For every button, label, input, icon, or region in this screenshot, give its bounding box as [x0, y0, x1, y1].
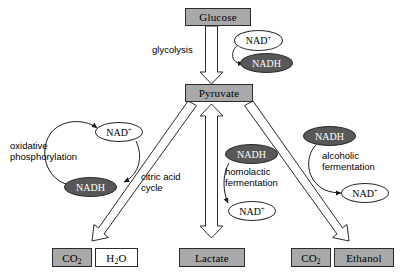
metabolite-h2o: H2O — [95, 248, 138, 267]
metabolite-co2-left: CO2 — [52, 248, 92, 267]
cofactor-nadh-glycolysis: NADH — [240, 53, 293, 73]
cofactor-nad-alcoholic-label: NAD+ — [352, 188, 378, 199]
glycolysis-block-arrow — [200, 26, 223, 84]
metabolite-pyruvate-label: Pyruvate — [199, 87, 240, 99]
metabolite-co2-right-label: CO2 — [301, 252, 321, 264]
pathway-label-homolactic-fermentation: homolactic fermentation — [225, 166, 278, 188]
cofactor-nad-oxphos: NAD+ — [95, 122, 143, 142]
cofactor-nad-glycolysis-label: NAD+ — [246, 35, 272, 46]
metabolite-ethanol-label: Ethanol — [346, 252, 382, 264]
cofactor-nad-homolactic: NAD+ — [228, 201, 276, 221]
pathway-label-citric-acid-cycle: citric acid cycle — [141, 171, 181, 193]
pathway-label-oxidative-phosphorylation: oxidative phosphorylation — [10, 140, 77, 162]
metabolite-glucose: Glucose — [185, 8, 251, 26]
cofactor-nadh-alcoholic: NADH — [303, 126, 356, 146]
pathway-label-glycolysis: glycolysis — [152, 44, 193, 55]
metabolite-lactate-label: Lactate — [195, 252, 229, 264]
metabolite-ethanol: Ethanol — [334, 248, 394, 267]
cofactor-nad-glycolysis: NAD+ — [234, 30, 283, 51]
metabolite-lactate: Lactate — [179, 248, 245, 267]
cofactor-nadh-homolactic-label: NADH — [237, 149, 266, 160]
metabolite-pyruvate: Pyruvate — [185, 84, 253, 102]
homolactic-double-arrow — [200, 104, 223, 238]
cofactor-nad-homolactic-label: NAD+ — [239, 206, 265, 217]
metabolite-co2-right: CO2 — [291, 248, 331, 267]
metabolite-glucose-label: Glucose — [199, 11, 236, 23]
cofactor-nadh-glycolysis-label: NADH — [252, 58, 281, 69]
cofactor-nad-alcoholic: NAD+ — [341, 183, 389, 203]
pathway-label-alcoholic-fermentation: alcoholic fermentation — [322, 150, 375, 172]
cofactor-nadh-homolactic: NADH — [225, 144, 278, 164]
cofactor-nadh-alcoholic-label: NADH — [315, 131, 344, 142]
metabolite-h2o-label: H2O — [106, 252, 126, 264]
cofactor-nadh-oxphos: NADH — [64, 177, 117, 197]
metabolite-co2-left-label: CO2 — [62, 252, 82, 264]
cofactor-nadh-oxphos-label: NADH — [76, 182, 105, 193]
cofactor-nad-oxphos-label: NAD+ — [106, 127, 132, 138]
metabolic-pathway-diagram: Glucose Pyruvate CO2 H2O Lactate CO2 Eth… — [0, 0, 404, 279]
